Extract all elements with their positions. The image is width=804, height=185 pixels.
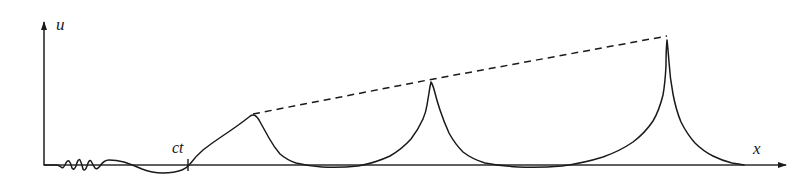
ct-marker-label: ct — [172, 140, 184, 156]
y-axis-label: u — [56, 16, 65, 33]
x-axis-label: x — [753, 140, 761, 157]
wave-profile-curve — [44, 40, 744, 173]
plot-canvas — [0, 0, 804, 185]
wave-figure: u x ct — [0, 0, 804, 185]
peak-envelope-dashed-line — [253, 36, 667, 114]
